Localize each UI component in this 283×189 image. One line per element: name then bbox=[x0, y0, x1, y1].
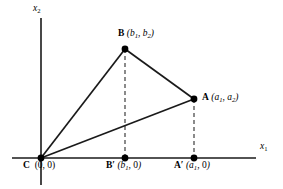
point-label-a-prime: A′ (a1, 0) bbox=[174, 161, 210, 171]
geometry-figure: x2 x1 B (b1, b2) A (a1, a2) C (0, 0) B′ … bbox=[0, 0, 283, 189]
point-marker-a bbox=[191, 96, 198, 103]
point-label-b: B (b1, b2) bbox=[118, 29, 154, 39]
edge-b-to-a bbox=[125, 49, 194, 99]
point-marker-b bbox=[122, 46, 129, 53]
x-axis-label: x1 bbox=[260, 141, 268, 151]
point-label-b-prime: B′ (b1, 0) bbox=[106, 161, 141, 171]
point-label-c: C (0, 0) bbox=[23, 161, 55, 171]
point-label-a: A (a1, a2) bbox=[202, 93, 238, 103]
y-axis-label: x2 bbox=[33, 3, 41, 13]
